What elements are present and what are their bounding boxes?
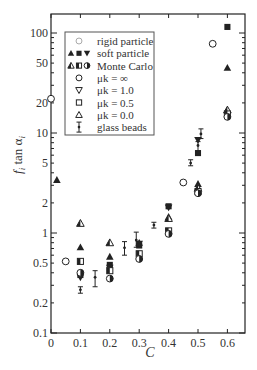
series-half-circle: [77, 113, 231, 282]
legend-label: rigid particle: [97, 35, 154, 47]
legend-label: μk = ∞: [97, 72, 128, 84]
scatter-chart: 00.10.20.30.40.50.6 0.10.20.512510205010…: [0, 0, 257, 370]
legend: rigid particlesoft particleMonte Carloμk…: [65, 32, 154, 135]
x-tick-label: 0.2: [102, 336, 117, 350]
y-tick-label: 2: [42, 196, 48, 210]
x-tick-label: 0.5: [191, 336, 206, 350]
y-tick-label: 0.5: [33, 256, 48, 270]
y-tick-label: 5: [42, 156, 48, 170]
x-tick-label: 0.1: [73, 336, 88, 350]
y-tick-label: 0.2: [33, 296, 48, 310]
y-tick-label: 0.1: [33, 326, 48, 340]
x-axis-label: C: [145, 345, 155, 360]
legend-label: μk = 0.0: [97, 109, 134, 121]
y-tick-label: 20: [36, 96, 48, 110]
y-axis-label: fi tan αi: [10, 136, 27, 174]
chart-canvas: 00.10.20.30.40.50.6 0.10.20.512510205010…: [0, 0, 257, 370]
series-errorbar: [78, 129, 204, 293]
legend-label: Monte Carlo: [97, 60, 153, 72]
legend-label: soft particle: [97, 47, 149, 59]
y-axis-label-text: fi tan αi: [10, 136, 27, 174]
legend-label: μk = 0.5: [97, 97, 134, 109]
y-tick-label: 10: [36, 126, 48, 140]
legend-label: glass beads: [97, 121, 147, 133]
legend-label: μk = 1.0: [97, 84, 134, 96]
y-tick-label: 1: [42, 226, 48, 240]
x-tick-label: 0.4: [161, 336, 176, 350]
y-tick-label: 100: [30, 26, 48, 40]
x-tick-label: 0.6: [220, 336, 235, 350]
y-tick-label: 50: [36, 56, 48, 70]
x-tick-label: 0: [48, 336, 54, 350]
